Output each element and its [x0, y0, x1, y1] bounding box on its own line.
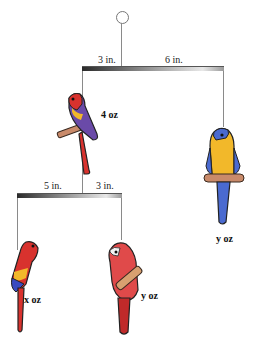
bottom-left-weight: x oz	[24, 294, 41, 305]
parrot-icon	[104, 240, 150, 336]
parrot-icon	[55, 90, 110, 175]
top-left-distance: 3 in.	[98, 54, 116, 65]
top-string	[121, 23, 122, 67]
bottom-right-weight: y oz	[141, 290, 158, 301]
parrot-icon	[202, 126, 246, 226]
top-left-weight: 4 oz	[101, 109, 118, 120]
bottom-beam	[17, 193, 122, 198]
top-beam	[82, 66, 224, 71]
parrot-icon	[6, 238, 42, 334]
top-right-string	[223, 71, 224, 127]
bottom-left-distance: 5 in.	[44, 180, 62, 191]
top-right-distance: 6 in.	[165, 54, 183, 65]
bottom-right-distance: 3 in.	[96, 180, 114, 191]
hook-icon	[116, 11, 129, 24]
top-right-weight: y oz	[216, 233, 233, 244]
bottom-right-string	[121, 198, 122, 240]
